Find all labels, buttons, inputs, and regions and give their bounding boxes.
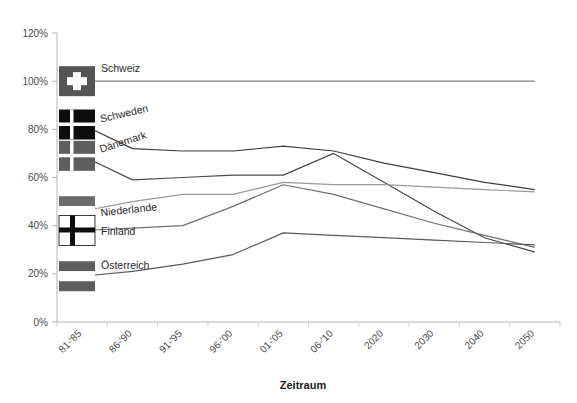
sweden-flag-icon (59, 110, 95, 140)
x-tick-label: 2040 (462, 327, 486, 351)
chart-canvas: 0%20%40%60%80%100%120% 81-'8586-'9091-'9… (0, 0, 577, 403)
y-tick-label: 120% (22, 28, 48, 39)
x-tick-label: 91-'95 (157, 327, 185, 355)
series-line-sterreich (82, 233, 535, 276)
series-label-sterreich: Österreich (101, 259, 150, 271)
x-tick-label: 2030 (412, 327, 436, 351)
series-label-finland: Finland (101, 225, 136, 237)
y-tick-label: 100% (22, 76, 48, 87)
x-tick-label: 2020 (362, 327, 386, 351)
series-labels: SchweizSchwedenDänemarkNiederlandeFinlan… (98, 62, 158, 271)
x-tick-label: 81-'85 (56, 327, 84, 355)
series-label-schweiz: Schweiz (101, 62, 140, 74)
denmark-flag-icon (59, 141, 95, 171)
line-chart: 0%20%40%60%80%100%120% 81-'8586-'9091-'9… (0, 0, 577, 403)
x-axis-title: Zeitraum (280, 379, 327, 391)
y-tick-label: 80% (28, 124, 48, 135)
series-label-niederlande: Niederlande (100, 200, 158, 218)
y-axis-ticks: 0%20%40%60%80%100%120% (22, 28, 57, 328)
axis-group (57, 33, 560, 322)
series-lines (82, 81, 535, 276)
x-tick-label: 01-'05 (258, 327, 286, 355)
series-label-dnemark: Dänemark (98, 128, 148, 155)
y-tick-label: 60% (28, 172, 48, 183)
x-tick-label: 2050 (513, 327, 537, 351)
finland-flag-icon (59, 215, 95, 245)
x-axis-ticks: 81-'8586-'9091-'9596-'0001-'0506-'102020… (56, 322, 560, 355)
swiss-flag-icon (59, 66, 95, 96)
y-tick-label: 40% (28, 220, 48, 231)
series-line-schweden (82, 125, 535, 190)
y-tick-label: 20% (28, 268, 48, 279)
x-tick-label: 96-'00 (207, 327, 235, 355)
y-tick-label: 0% (34, 317, 49, 328)
austria-flag-icon (59, 261, 95, 291)
series-line-finland (82, 185, 535, 248)
series-label-schweden: Schweden (99, 102, 150, 125)
x-tick-label: 86-'90 (107, 327, 135, 355)
x-tick-label: 06-'10 (308, 327, 336, 355)
legend-flags (59, 66, 95, 291)
